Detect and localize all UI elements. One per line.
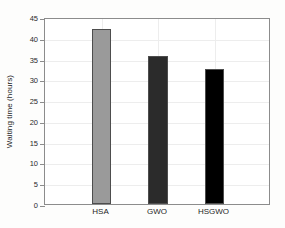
y-tick-mark: [40, 144, 45, 145]
y-tick-label: 45: [30, 15, 38, 23]
bar-hsgwo: [205, 69, 224, 204]
y-tick-label: 25: [30, 98, 38, 106]
y-tick-mark: [40, 19, 45, 20]
x-tick-label-hsgwo: HSGWO: [198, 208, 229, 216]
y-tick-label: 10: [30, 161, 38, 169]
y-tick-mark: [40, 206, 45, 207]
y-tick-mark: [40, 61, 45, 62]
y-tick-mark: [40, 164, 45, 165]
y-axis-title-label: Waiting time (hours): [6, 75, 15, 148]
y-tick-mark: [40, 102, 45, 103]
y-tick-label: 30: [30, 78, 38, 86]
plot-area: 051015202530354045: [44, 18, 270, 205]
y-tick-label: 40: [30, 36, 38, 44]
bar-chart-figure: Waiting time (hours) 051015202530354045 …: [0, 0, 285, 228]
y-axis-title: Waiting time (hours): [4, 18, 16, 205]
bar-gwo: [148, 56, 167, 204]
y-tick-mark: [40, 123, 45, 124]
y-tick-mark: [40, 81, 45, 82]
gridline-horizontal: [45, 40, 269, 41]
bar-hsa: [92, 29, 111, 204]
x-tick-label-gwo: GWO: [147, 208, 167, 216]
y-tick-label: 5: [34, 181, 38, 189]
y-tick-mark: [40, 40, 45, 41]
y-tick-label: 20: [30, 119, 38, 127]
y-tick-mark: [40, 185, 45, 186]
y-tick-label: 15: [30, 140, 38, 148]
y-tick-label: 35: [30, 57, 38, 65]
y-tick-label: 0: [34, 202, 38, 210]
x-tick-label-hsa: HSA: [92, 208, 108, 216]
